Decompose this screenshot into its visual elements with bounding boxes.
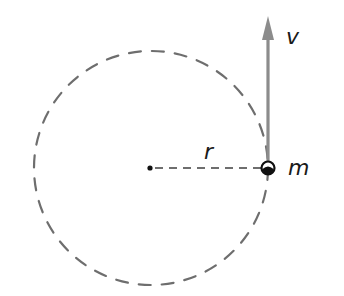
center-dot [147,165,152,170]
radius-label: r [204,141,213,163]
mass-icon [262,162,275,175]
mass-label: m [288,157,309,179]
velocity-label: v [286,26,299,48]
velocity-arrow-head [262,16,274,40]
